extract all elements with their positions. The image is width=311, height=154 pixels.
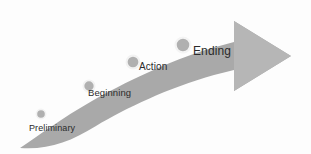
marker-circle: [36, 109, 45, 118]
process-arrow-diagram: Preliminary Beginning Action Ending: [0, 0, 311, 154]
stage-marker-action[interactable]: [127, 56, 140, 69]
marker-circle: [176, 38, 191, 53]
marker-circle: [127, 56, 140, 69]
stage-marker-ending[interactable]: [176, 38, 191, 53]
stage-label-action: Action: [139, 62, 167, 72]
stage-label-beginning: Beginning: [88, 88, 131, 98]
stage-label-preliminary: Preliminary: [29, 124, 75, 133]
stage-label-ending: Ending: [193, 45, 231, 57]
stage-marker-preliminary[interactable]: [36, 109, 45, 118]
